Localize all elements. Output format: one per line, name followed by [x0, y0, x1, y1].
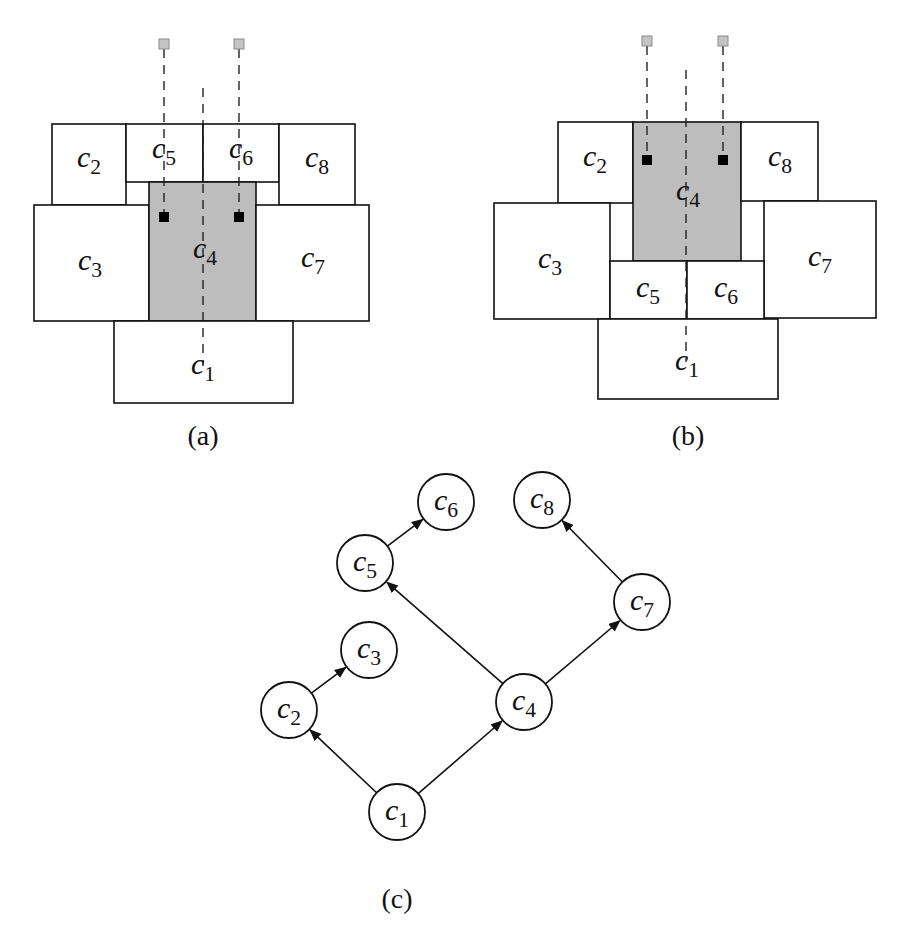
panel-caption-a: (a)	[187, 420, 218, 451]
graph-node-c3: c3	[341, 622, 397, 678]
graph-node-c5: c5	[337, 535, 393, 591]
edge-c5-to-c6	[387, 519, 422, 546]
graph-node-c7: c7	[614, 574, 670, 630]
graph-node-c4: c4	[496, 674, 552, 730]
graph-node-c6: c6	[418, 474, 474, 530]
cell-port-icon	[234, 212, 244, 222]
graph-node-c8: c8	[514, 472, 570, 528]
edge-c1-to-c2	[310, 730, 377, 793]
edge-c4-to-c5	[387, 582, 503, 683]
cell-port-icon	[718, 155, 728, 165]
edge-c7-to-c8	[562, 521, 622, 582]
panel-c-tree-graph: c1c2c3c4c5c6c7c8(c)	[261, 472, 670, 914]
io-pin-icon	[159, 39, 169, 49]
panel-b-floorplan: c2c4c8c3c7c5c6c1(b)	[494, 36, 876, 451]
cell-port-icon	[159, 212, 169, 222]
panel-caption-c: (c)	[381, 883, 412, 914]
graph-node-c2: c2	[261, 682, 317, 738]
figure-canvas: c2c5c6c8c3c4c7c1(a) c2c4c8c3c7c5c6c1(b) …	[0, 0, 906, 940]
panel-a-floorplan: c2c5c6c8c3c4c7c1(a)	[34, 39, 369, 451]
panel-caption-b: (b)	[672, 420, 705, 451]
io-pin-icon	[234, 39, 244, 49]
io-pin-icon	[642, 36, 652, 46]
edge-c2-to-c3	[311, 667, 345, 693]
cell-port-icon	[642, 155, 652, 165]
graph-node-c1: c1	[369, 784, 425, 840]
edge-c4-to-c7	[545, 621, 620, 684]
io-pin-icon	[718, 36, 728, 46]
edge-c1-to-c4	[418, 721, 502, 794]
